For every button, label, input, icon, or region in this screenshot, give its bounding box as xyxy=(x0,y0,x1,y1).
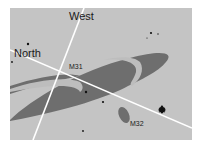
m31-label: M31 xyxy=(69,63,83,70)
m32-label: M32 xyxy=(130,120,144,127)
sky-chart-graphic xyxy=(10,8,192,140)
west-axis-line xyxy=(33,8,84,140)
sky-chart-panel xyxy=(10,8,192,140)
north-label: North xyxy=(14,48,41,59)
m31-galaxy xyxy=(10,53,169,121)
west-label: West xyxy=(69,11,94,22)
